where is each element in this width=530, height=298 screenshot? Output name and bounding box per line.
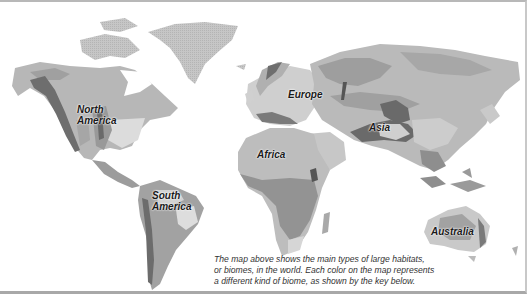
caption-line-1: The map above shows the main types of la… bbox=[214, 254, 524, 265]
label-south-america-line2: America bbox=[152, 201, 191, 212]
label-south-america-line1: South bbox=[152, 190, 191, 201]
label-north-america-line1: North bbox=[77, 104, 116, 115]
map-caption: The map above shows the main types of la… bbox=[214, 254, 524, 287]
label-asia: Asia bbox=[369, 122, 390, 133]
greenland bbox=[148, 22, 238, 84]
label-africa: Africa bbox=[257, 149, 285, 160]
label-north-america-line2: America bbox=[77, 115, 116, 126]
caption-line-3: a different kind of biome, as shown by t… bbox=[214, 276, 524, 287]
label-europe: Europe bbox=[288, 89, 322, 100]
caption-line-2: or biomes, in the world. Each color on t… bbox=[214, 265, 524, 276]
label-south-america: South America bbox=[152, 190, 191, 212]
label-north-america: North America bbox=[77, 104, 116, 126]
label-australia: Australia bbox=[431, 226, 474, 237]
